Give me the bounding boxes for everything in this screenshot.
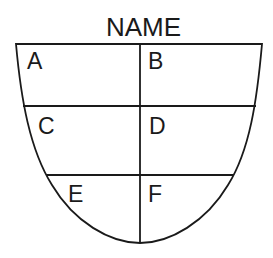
shield-border [16, 44, 262, 243]
cell-label-c: C [38, 115, 55, 138]
cell-label-e: E [68, 183, 83, 206]
cell-label-d: D [149, 115, 166, 138]
shield-diagram: NAME A B C D E F [0, 0, 273, 258]
cell-label-f: F [148, 183, 162, 206]
cell-label-a: A [27, 50, 42, 73]
cell-label-b: B [148, 50, 163, 73]
diagram-title: NAME [106, 14, 181, 40]
